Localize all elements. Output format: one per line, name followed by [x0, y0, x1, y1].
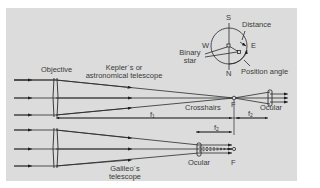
compass-diagram [205, 23, 250, 70]
f1-label: f1 [150, 111, 155, 120]
galileo-focus-point [232, 147, 235, 150]
objective-label: Objective [41, 66, 72, 74]
kepler-objective-lens [53, 78, 58, 117]
compass-south-label: S [226, 14, 231, 22]
binary-star-label-line2: star [176, 57, 204, 65]
compass-north-label: N [226, 70, 231, 78]
crosshairs-label: Crosshairs [185, 104, 221, 112]
position-angle-label: Position angle [241, 68, 288, 76]
galileo-focus-label: F [231, 159, 236, 167]
galileo-objective-lens [53, 128, 58, 168]
galileo-ocular-label: Ocular [188, 159, 210, 167]
kepler-focus-label: F [231, 101, 236, 109]
galileo-title-line2: telescope [100, 173, 150, 181]
galileo-f2-label: f2 [214, 124, 219, 133]
distance-label: Distance [242, 21, 271, 29]
kepler-ocular-label: Ocular [260, 104, 282, 112]
kepler-f2-label: f2 [248, 110, 253, 119]
kepler-title-line2: astronomical telescope [84, 72, 164, 80]
compass-east-label: E [251, 42, 256, 50]
